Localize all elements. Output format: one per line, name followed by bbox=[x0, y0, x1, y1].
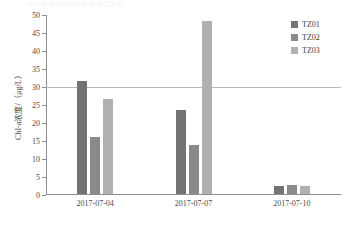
x-tick-label: 2017-07-10 bbox=[273, 199, 310, 208]
y-tick-label: 10 bbox=[32, 155, 40, 164]
y-tick-label: 40 bbox=[32, 47, 40, 56]
bar-tz01-2017-07-10 bbox=[274, 186, 284, 194]
legend-swatch-icon bbox=[291, 47, 298, 54]
y-tick-mark bbox=[42, 195, 46, 196]
legend-item-tz01[interactable]: TZ01 bbox=[291, 19, 351, 30]
y-tick-label: 20 bbox=[32, 119, 40, 128]
legend-item-tz02[interactable]: TZ02 bbox=[291, 32, 351, 43]
y-tick-label: 30 bbox=[32, 83, 40, 92]
y-tick-label: 45 bbox=[32, 29, 40, 38]
y-tick-mark bbox=[42, 123, 46, 124]
bar-tz02-2017-07-04 bbox=[90, 137, 100, 194]
bar-tz02-2017-07-07 bbox=[189, 145, 199, 194]
legend-label: TZ02 bbox=[302, 33, 320, 42]
legend-swatch-icon bbox=[291, 34, 298, 41]
legend-item-tz03[interactable]: TZ03 bbox=[291, 45, 351, 56]
legend-label: TZ01 bbox=[302, 20, 320, 29]
bar-tz03-2017-07-04 bbox=[103, 99, 113, 194]
legend-swatch-icon bbox=[291, 21, 298, 28]
chart-title: 2017年7月台州湾叶绿素a浓度变化 bbox=[26, 0, 166, 8]
legend-label: TZ03 bbox=[302, 46, 320, 55]
y-axis-label: Chl-a浓度/（μg/L） bbox=[12, 46, 23, 166]
bar-tz01-2017-07-04 bbox=[77, 81, 87, 194]
y-tick-label: 15 bbox=[32, 137, 40, 146]
y-tick-mark bbox=[42, 159, 46, 160]
y-tick-mark bbox=[42, 33, 46, 34]
y-axis-line bbox=[46, 15, 47, 195]
chart-figure: 2017年7月台州湾叶绿素a浓度变化 Chl-a浓度/（μg/L） 051015… bbox=[0, 0, 353, 226]
y-tick-label: 5 bbox=[36, 173, 40, 182]
y-tick-mark bbox=[42, 51, 46, 52]
bar-tz02-2017-07-10 bbox=[287, 185, 297, 194]
x-tick-label: 2017-07-04 bbox=[76, 199, 113, 208]
y-tick-mark bbox=[42, 105, 46, 106]
y-tick-mark bbox=[42, 177, 46, 178]
x-tick-label: 2017-07-07 bbox=[175, 199, 212, 208]
y-tick-label: 0 bbox=[36, 191, 40, 200]
bar-tz01-2017-07-07 bbox=[176, 110, 186, 194]
x-axis-line bbox=[46, 194, 341, 195]
bar-tz03-2017-07-10 bbox=[300, 186, 310, 194]
y-tick-label: 35 bbox=[32, 65, 40, 74]
y-tick-label: 50 bbox=[32, 11, 40, 20]
y-tick-mark bbox=[42, 141, 46, 142]
bar-tz03-2017-07-07 bbox=[202, 21, 212, 194]
chart-legend: TZ01TZ02TZ03 bbox=[291, 19, 351, 58]
reference-line-30 bbox=[46, 87, 341, 88]
y-tick-mark bbox=[42, 69, 46, 70]
y-tick-label: 25 bbox=[32, 101, 40, 110]
y-tick-mark bbox=[42, 15, 46, 16]
